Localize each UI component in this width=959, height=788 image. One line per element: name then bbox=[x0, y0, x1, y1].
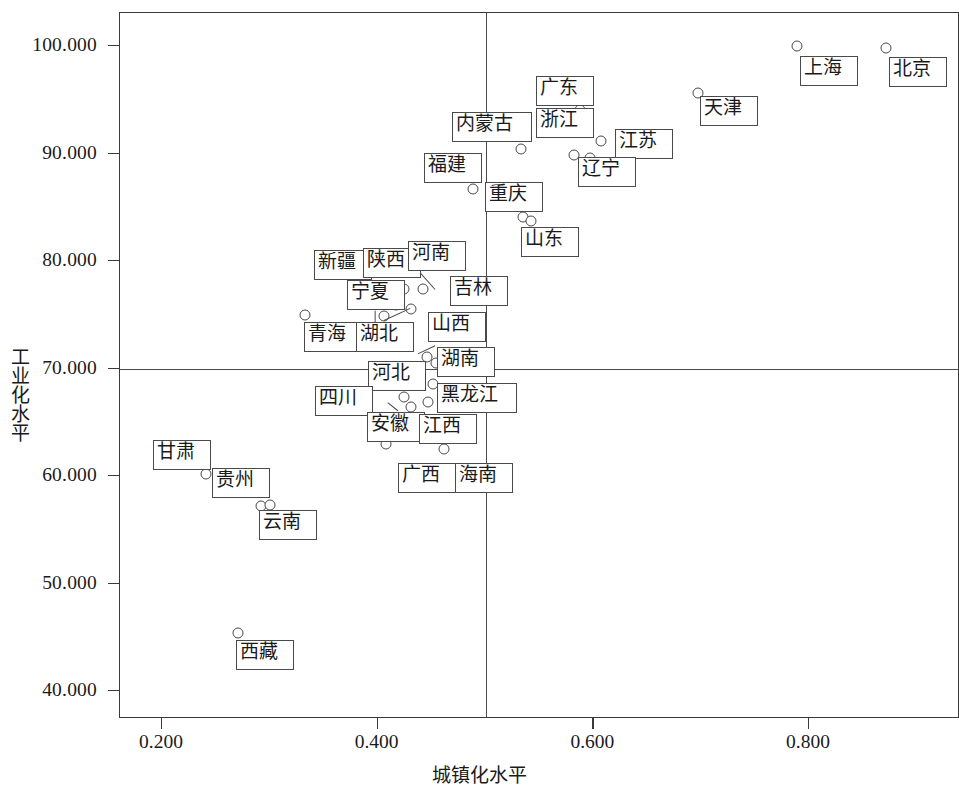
data-point-marker[interactable] bbox=[792, 41, 803, 52]
y-axis-tick-label: 90.000 bbox=[42, 142, 97, 164]
data-point-label: 宁夏 bbox=[347, 280, 405, 310]
y-axis-tick-label: 100.000 bbox=[32, 34, 97, 56]
data-point-label: 云南 bbox=[259, 510, 317, 540]
data-point-label: 天津 bbox=[700, 96, 758, 126]
data-point-label: 浙江 bbox=[536, 108, 594, 138]
y-axis-title: 工业化水平 bbox=[6, 347, 33, 442]
data-point-label: 湖北 bbox=[356, 322, 414, 352]
data-point-marker[interactable] bbox=[232, 628, 243, 639]
data-point-label: 湖南 bbox=[437, 347, 495, 377]
data-point-label: 山西 bbox=[428, 312, 486, 342]
data-point-marker[interactable] bbox=[467, 184, 478, 195]
data-point-label: 山东 bbox=[521, 227, 579, 257]
x-axis-tick-label: 0.600 bbox=[570, 731, 614, 753]
data-point-label: 吉林 bbox=[450, 276, 508, 306]
data-point-label: 福建 bbox=[424, 153, 482, 183]
label-leader-line bbox=[374, 311, 375, 323]
data-point-label: 贵州 bbox=[212, 468, 270, 498]
y-axis-tick-label: 50.000 bbox=[42, 572, 97, 594]
reference-line-horizontal bbox=[120, 369, 958, 370]
data-point-label: 内蒙古 bbox=[452, 112, 532, 142]
y-axis-tick-mark bbox=[108, 583, 119, 584]
y-axis-tick-mark bbox=[108, 368, 119, 369]
data-point-marker[interactable] bbox=[438, 444, 449, 455]
scatter-chart-figure: 40.00050.00060.00070.00080.00090.000100.… bbox=[0, 0, 959, 788]
x-axis-title: 城镇化水平 bbox=[0, 760, 959, 787]
data-point-marker[interactable] bbox=[300, 309, 311, 320]
x-axis-tick-mark bbox=[808, 718, 809, 729]
data-point-label: 青海 bbox=[304, 322, 362, 352]
y-axis-tick-label: 70.000 bbox=[42, 357, 97, 379]
data-point-label: 海南 bbox=[455, 463, 513, 493]
data-point-marker[interactable] bbox=[880, 43, 891, 54]
x-axis-tick-label: 0.400 bbox=[355, 731, 399, 753]
data-point-label: 广西 bbox=[398, 463, 456, 493]
y-axis-tick-mark bbox=[108, 45, 119, 46]
data-point-marker[interactable] bbox=[423, 396, 434, 407]
x-axis-tick-mark bbox=[592, 718, 593, 729]
y-axis-tick-mark bbox=[108, 260, 119, 261]
data-point-marker[interactable] bbox=[516, 144, 527, 155]
x-axis-tick-mark bbox=[161, 718, 162, 729]
data-point-label: 河南 bbox=[408, 241, 466, 271]
y-axis-tick-mark bbox=[108, 153, 119, 154]
data-point-marker[interactable] bbox=[525, 216, 536, 227]
data-point-marker[interactable] bbox=[595, 135, 606, 146]
data-point-label: 重庆 bbox=[485, 182, 543, 212]
data-point-label: 四川 bbox=[315, 386, 373, 416]
data-point-label: 辽宁 bbox=[578, 157, 636, 187]
x-axis-tick-label: 0.800 bbox=[786, 731, 830, 753]
y-axis-tick-mark bbox=[108, 475, 119, 476]
data-point-label: 西藏 bbox=[236, 640, 294, 670]
data-point-label: 上海 bbox=[800, 56, 858, 86]
data-point-label: 广东 bbox=[536, 76, 594, 106]
data-point-label: 北京 bbox=[889, 57, 947, 87]
data-point-marker[interactable] bbox=[398, 391, 409, 402]
data-point-label: 江西 bbox=[419, 414, 477, 444]
y-axis-tick-label: 60.000 bbox=[42, 464, 97, 486]
data-point-marker[interactable] bbox=[418, 284, 429, 295]
y-axis-tick-mark bbox=[108, 690, 119, 691]
x-axis-tick-label: 0.200 bbox=[139, 731, 183, 753]
data-point-marker[interactable] bbox=[201, 468, 212, 479]
data-point-label: 甘肃 bbox=[153, 440, 211, 470]
data-point-label: 江苏 bbox=[615, 129, 673, 159]
x-axis-tick-mark bbox=[377, 718, 378, 729]
data-point-marker[interactable] bbox=[264, 500, 275, 511]
data-point-label: 安徽 bbox=[367, 412, 425, 442]
y-axis-tick-label: 40.000 bbox=[42, 679, 97, 701]
data-point-label: 黑龙江 bbox=[437, 383, 517, 413]
y-axis-tick-label: 80.000 bbox=[42, 249, 97, 271]
data-point-label: 河北 bbox=[368, 361, 426, 391]
